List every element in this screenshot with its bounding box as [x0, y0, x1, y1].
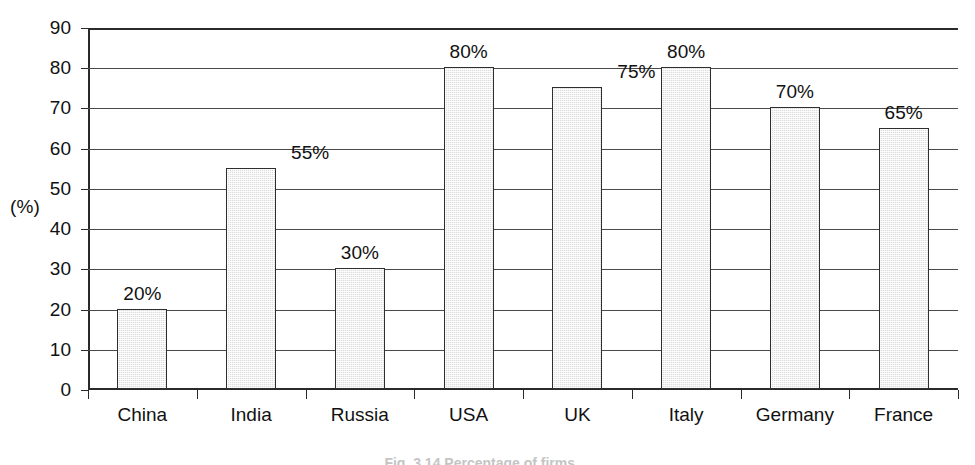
x-tick-4	[523, 390, 524, 399]
category-label-italy: Italy	[669, 404, 704, 426]
y-tick-30: 30	[81, 269, 88, 270]
category-label-india: India	[231, 404, 272, 426]
x-tick-8	[958, 390, 959, 399]
plot-area: 9080706050403020100	[88, 28, 958, 390]
bar-uk	[552, 87, 602, 389]
y-tick-label-50: 50	[50, 178, 71, 200]
bar-value-label-india: 55%	[291, 142, 329, 164]
y-tick-0: 0	[81, 390, 88, 391]
gridline-60	[88, 149, 958, 150]
x-tick-6	[741, 390, 742, 399]
y-tick-90: 90	[81, 28, 88, 29]
y-tick-label-40: 40	[50, 218, 71, 240]
y-tick-10: 10	[81, 350, 88, 351]
gridline-10	[88, 350, 958, 351]
x-tick-3	[414, 390, 415, 399]
bar-value-label-italy: 80%	[667, 41, 705, 63]
category-label-usa: USA	[449, 404, 488, 426]
bar-value-label-russia: 30%	[341, 242, 379, 264]
y-axis-unit-label: (%)	[10, 196, 40, 218]
y-tick-label-70: 70	[50, 97, 71, 119]
bar-russia	[335, 268, 385, 389]
x-tick-0	[88, 390, 89, 399]
bar-value-label-usa: 80%	[450, 41, 488, 63]
y-tick-50: 50	[81, 189, 88, 190]
x-tick-7	[849, 390, 850, 399]
bar-italy	[661, 67, 711, 389]
y-tick-80: 80	[81, 68, 88, 69]
bar-usa	[444, 67, 494, 389]
bar-value-label-china: 20%	[123, 283, 161, 305]
gridline-70	[88, 108, 958, 109]
gridline-50	[88, 189, 958, 190]
y-tick-label-90: 90	[50, 17, 71, 39]
gridline-40	[88, 229, 958, 230]
gridline-80	[88, 68, 958, 69]
category-label-germany: Germany	[756, 404, 834, 426]
y-tick-60: 60	[81, 149, 88, 150]
x-tick-1	[197, 390, 198, 399]
bar-value-label-uk: 75%	[617, 61, 655, 83]
category-label-china: China	[118, 404, 168, 426]
bar-value-label-france: 65%	[885, 102, 923, 124]
gridline-20	[88, 310, 958, 311]
y-tick-label-60: 60	[50, 138, 71, 160]
gridline-90	[88, 28, 958, 30]
y-tick-20: 20	[81, 310, 88, 311]
y-tick-label-0: 0	[60, 379, 71, 401]
y-tick-40: 40	[81, 229, 88, 230]
bar-india	[226, 168, 276, 389]
bar-germany	[770, 107, 820, 389]
x-tick-5	[632, 390, 633, 399]
bar-value-label-germany: 70%	[776, 81, 814, 103]
x-tick-2	[306, 390, 307, 399]
bar-china	[117, 309, 167, 389]
category-label-uk: UK	[564, 404, 590, 426]
y-tick-label-20: 20	[50, 299, 71, 321]
y-tick-label-10: 10	[50, 339, 71, 361]
category-label-russia: Russia	[331, 404, 389, 426]
bar-france	[879, 128, 929, 389]
bar-chart-figure: (%) 9080706050403020100 ChinaIndiaRussia…	[0, 0, 975, 465]
y-tick-label-80: 80	[50, 57, 71, 79]
y-axis-line	[88, 28, 90, 390]
gridline-30	[88, 269, 958, 270]
y-tick-label-30: 30	[50, 258, 71, 280]
y-tick-70: 70	[81, 108, 88, 109]
figure-caption: Fig. 3.14 Percentage of firms ...	[0, 455, 975, 465]
category-label-france: France	[874, 404, 933, 426]
